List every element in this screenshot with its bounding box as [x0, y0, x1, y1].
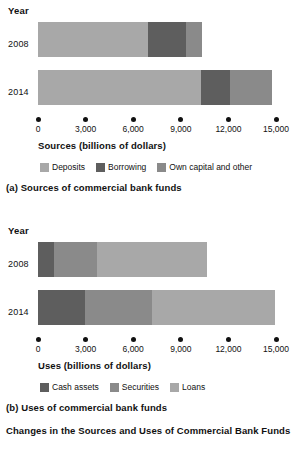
legend-swatch-cash-assets	[40, 383, 49, 392]
legend-swatch-own-capital	[157, 163, 166, 172]
panel-b-tick-label-0: 0	[36, 344, 41, 354]
panel-b-axis-title: Uses (billions of dollars)	[38, 360, 151, 371]
panel-a-bar-2008	[38, 22, 202, 57]
legend-item-securities[interactable]: Securities	[110, 382, 159, 392]
legend-label-deposits: Deposits	[52, 162, 85, 172]
legend-swatch-loans	[170, 383, 179, 392]
legend-label-loans: Loans	[182, 382, 205, 392]
panel-b-legend: Cash assets Securities Loans	[40, 382, 212, 392]
panel-a-bar-2014-seg-borrowing	[201, 70, 230, 105]
panel-a-tick-label-2: 6,000	[123, 124, 144, 134]
panel-a-bar-2014	[38, 70, 272, 105]
panel-a-tick-dot-1	[83, 117, 88, 122]
panel-b-tick-dot-2	[131, 337, 136, 342]
panel-a-tick-label-4: 12,000	[215, 124, 241, 134]
legend-item-deposits[interactable]: Deposits	[40, 162, 85, 172]
panel-b-tick-dot-4	[226, 337, 231, 342]
legend-label-cash-assets: Cash assets	[52, 382, 99, 392]
panel-a-tick-label-3: 9,000	[170, 124, 191, 134]
legend-item-cash-assets[interactable]: Cash assets	[40, 382, 99, 392]
panel-b-bar-2008-seg-cash-assets	[38, 242, 54, 277]
panel-a-axis-title: Sources (billions of dollars)	[38, 140, 166, 151]
panel-b-bar-2008-seg-securities	[54, 242, 97, 277]
panel-a-bar-2008-seg-deposits	[38, 22, 148, 57]
legend-label-securities: Securities	[122, 382, 159, 392]
panel-a-bar-2014-seg-own-capital	[230, 70, 272, 105]
panel-a-caption: (a) Sources of commercial bank funds	[6, 182, 182, 193]
panel-b-tick-dot-5	[274, 337, 279, 342]
legend-item-borrowing[interactable]: Borrowing	[96, 162, 146, 172]
panel-b-tick-dot-3	[178, 337, 183, 342]
panel-a-tick-dot-0	[36, 117, 41, 122]
panel-b-tick-label-5: 15,000	[263, 344, 289, 354]
panel-b-bar-2014	[38, 290, 275, 325]
panel-a-legend: Deposits Borrowing Own capital and other	[40, 162, 259, 172]
panel-a-tick-dot-2	[131, 117, 136, 122]
figure-title: Changes in the Sources and Uses of Comme…	[6, 425, 290, 436]
legend-label-borrowing: Borrowing	[108, 162, 146, 172]
panel-b-tick-dot-1	[83, 337, 88, 342]
legend-swatch-borrowing	[96, 163, 105, 172]
panel-b-tick-label-2: 6,000	[123, 344, 144, 354]
legend-item-loans[interactable]: Loans	[170, 382, 205, 392]
legend-label-own-capital: Own capital and other	[169, 162, 252, 172]
panel-a-bar-2014-seg-deposits	[38, 70, 201, 105]
panel-sources: Year 2008 2014 0 3,000 6,000 9,000 12,00…	[0, 0, 301, 200]
legend-item-own-capital[interactable]: Own capital and other	[157, 162, 252, 172]
panel-a-bar-2008-seg-own-capital	[186, 22, 202, 57]
panel-a-tick-label-5: 15,000	[263, 124, 289, 134]
panel-b-tick-dot-0	[36, 337, 41, 342]
panel-a-tick-dot-3	[178, 117, 183, 122]
panel-b-bar-2008-seg-loans	[97, 242, 207, 277]
panel-b-bar-2014-seg-securities	[85, 290, 152, 325]
legend-swatch-deposits	[40, 163, 49, 172]
panel-a-tick-label-1: 3,000	[75, 124, 96, 134]
panel-a-plot-area	[0, 0, 301, 118]
panel-b-caption: (b) Uses of commercial bank funds	[6, 402, 167, 413]
panel-a-tick-label-0: 0	[36, 124, 41, 134]
panel-a-tick-dot-4	[226, 117, 231, 122]
legend-swatch-securities	[110, 383, 119, 392]
panel-b-bar-2014-seg-loans	[152, 290, 275, 325]
panel-a-bar-2008-seg-borrowing	[148, 22, 186, 57]
panel-b-bar-2008	[38, 242, 207, 277]
panel-a-tick-dot-5	[274, 117, 279, 122]
panel-b-tick-label-4: 12,000	[215, 344, 241, 354]
panel-b-plot-area	[0, 220, 301, 338]
panel-b-tick-label-3: 9,000	[170, 344, 191, 354]
panel-uses: Year 2008 2014 0 3,000 6,000 9,000 12,00…	[0, 220, 301, 452]
panel-b-bar-2014-seg-cash-assets	[38, 290, 85, 325]
panel-b-tick-label-1: 3,000	[75, 344, 96, 354]
